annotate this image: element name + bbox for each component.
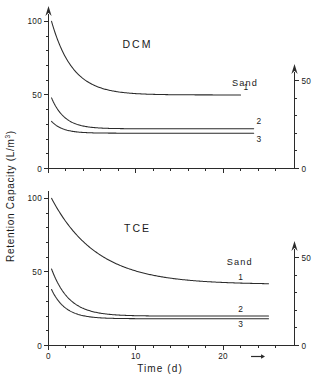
curve-dcm-1 bbox=[52, 21, 241, 95]
curve-dcm-2 bbox=[52, 98, 254, 129]
x-axis-tick-label-tce: 0 bbox=[46, 352, 51, 361]
right-axis-tick-label-dcm: 50 bbox=[302, 77, 312, 86]
curve-label-dcm-2: 2 bbox=[257, 116, 262, 126]
x-axis-tick-label-tce: 20 bbox=[218, 352, 228, 361]
curve-label-tce-1: 1 bbox=[238, 272, 243, 282]
chart-svg: 050100050123DCMSand05010001020050123TCES… bbox=[0, 0, 321, 378]
curve-label-dcm-3: 3 bbox=[257, 134, 262, 144]
curve-tce-1 bbox=[52, 198, 269, 283]
x-axis-title: Time (d) bbox=[137, 363, 183, 374]
left-axis-tick-label-tce: 50 bbox=[32, 268, 42, 277]
y-axis-title: Retention Capacity (L/m3) bbox=[4, 130, 16, 262]
panel-dcm: 050100050123DCMSand bbox=[27, 6, 311, 174]
curve-label-tce-3: 3 bbox=[238, 319, 243, 329]
panel-tce: 05010001020050123TCESand bbox=[27, 191, 311, 361]
left-axis-tick-label-dcm: 50 bbox=[32, 91, 42, 100]
left-axis-tick-label-tce: 100 bbox=[27, 194, 42, 203]
x-axis-range-marker-arrow-tce bbox=[261, 354, 265, 358]
left-axis-tick-label-tce: 0 bbox=[37, 342, 42, 351]
right-axis-tick-label-dcm: 0 bbox=[302, 165, 307, 174]
curve-label-tce-2: 2 bbox=[238, 304, 243, 314]
panel-label-dcm: DCM bbox=[122, 38, 152, 50]
left-axis-tick-label-dcm: 0 bbox=[37, 165, 42, 174]
figure-container: 050100050123DCMSand05010001020050123TCES… bbox=[0, 0, 321, 378]
legend-title-dcm: Sand bbox=[232, 78, 258, 88]
y-axis-title-text: Retention Capacity (L/m3) bbox=[4, 130, 16, 262]
panel-label-tce: TCE bbox=[124, 222, 151, 234]
right-axis-tick-label-tce: 50 bbox=[302, 254, 312, 263]
curve-tce-3 bbox=[52, 290, 269, 319]
left-axis-tick-label-dcm: 100 bbox=[27, 17, 42, 26]
legend-title-tce: Sand bbox=[227, 257, 253, 267]
right-axis-tick-label-tce: 0 bbox=[302, 342, 307, 351]
curve-dcm-3 bbox=[52, 121, 254, 133]
x-axis-tick-label-tce: 10 bbox=[131, 352, 141, 361]
